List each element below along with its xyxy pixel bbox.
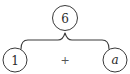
plus-operator: + xyxy=(60,54,69,67)
curly-brace-connector xyxy=(21,33,109,49)
root-node-label: 6 xyxy=(61,12,69,26)
right-operand-node: a xyxy=(103,48,127,72)
left-operand-label: 1 xyxy=(11,54,19,68)
expression-diagram: 6 1 + a xyxy=(0,0,130,74)
left-operand-node: 1 xyxy=(3,48,27,72)
root-node: 6 xyxy=(53,6,78,31)
right-operand-label: a xyxy=(111,53,118,67)
